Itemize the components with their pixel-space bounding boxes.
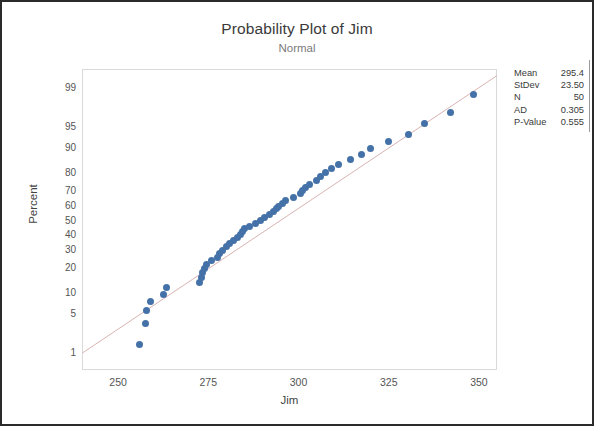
statistic-value: 295.4 bbox=[558, 68, 584, 80]
statistic-label: Mean bbox=[514, 68, 558, 80]
x-tick-label: 275 bbox=[200, 376, 218, 388]
statistics-row: P-Value0.555 bbox=[514, 117, 584, 129]
y-tick-label: 40 bbox=[52, 228, 76, 239]
statistic-label: P-Value bbox=[514, 117, 558, 129]
statistics-box: Mean295.4StDev23.50N50AD0.305P-Value0.55… bbox=[514, 68, 584, 129]
data-point bbox=[306, 181, 313, 188]
statistic-value: 23.50 bbox=[558, 80, 584, 92]
data-point bbox=[142, 320, 149, 327]
x-axis-title: Jim bbox=[82, 394, 497, 406]
statistics-table: Mean295.4StDev23.50N50AD0.305P-Value0.55… bbox=[514, 68, 584, 129]
y-tick-label: 90 bbox=[52, 141, 76, 152]
y-tick-label: 5 bbox=[52, 307, 76, 318]
y-tick-label: 70 bbox=[52, 184, 76, 195]
y-tick-label: 10 bbox=[52, 287, 76, 298]
statistics-row: N50 bbox=[514, 92, 584, 104]
y-tick-label: 1 bbox=[52, 346, 76, 357]
probability-plot-image: Probability Plot of Jim Normal 151020304… bbox=[0, 0, 594, 426]
y-tick-label: 60 bbox=[52, 200, 76, 211]
chart-title: Probability Plot of Jim bbox=[2, 20, 592, 38]
x-tick-label: 325 bbox=[380, 376, 398, 388]
statistic-value: 0.555 bbox=[558, 117, 584, 129]
data-point bbox=[328, 165, 335, 172]
y-tick-label: 80 bbox=[52, 166, 76, 177]
statistics-row: AD0.305 bbox=[514, 105, 584, 117]
y-tick-label: 20 bbox=[52, 262, 76, 273]
statistics-row: StDev23.50 bbox=[514, 80, 584, 92]
data-point bbox=[447, 109, 454, 116]
statistic-label: StDev bbox=[514, 80, 558, 92]
x-tick-label: 350 bbox=[470, 376, 488, 388]
x-tick-label: 250 bbox=[109, 376, 127, 388]
data-point bbox=[136, 341, 143, 348]
y-tick-label: 50 bbox=[52, 214, 76, 225]
y-tick-label: 99 bbox=[52, 82, 76, 93]
statistic-value: 50 bbox=[558, 92, 584, 104]
y-tick-label: 30 bbox=[52, 244, 76, 255]
y-tick-label: 95 bbox=[52, 121, 76, 132]
statistic-label: AD bbox=[514, 105, 558, 117]
y-axis-ticks: 151020304050607080909599 bbox=[50, 69, 76, 370]
x-axis-ticks: 250275300325350 bbox=[82, 376, 497, 392]
data-point bbox=[160, 291, 167, 298]
data-point bbox=[405, 131, 412, 138]
chart-subtitle: Normal bbox=[2, 42, 592, 54]
y-axis-title: Percent bbox=[27, 164, 39, 244]
x-tick-label: 300 bbox=[290, 376, 308, 388]
data-point bbox=[290, 194, 297, 201]
statistics-row: Mean295.4 bbox=[514, 68, 584, 80]
stats-divider bbox=[589, 60, 590, 132]
data-point bbox=[335, 161, 342, 168]
statistic-value: 0.305 bbox=[558, 105, 584, 117]
data-point bbox=[282, 197, 289, 204]
statistic-label: N bbox=[514, 92, 558, 104]
